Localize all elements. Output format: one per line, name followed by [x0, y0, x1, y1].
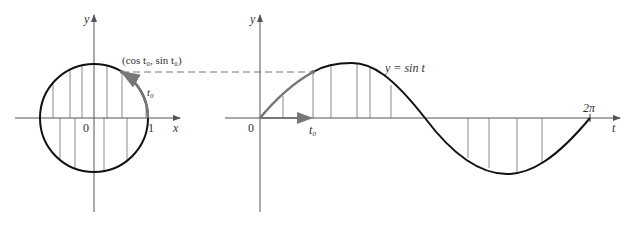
left-panel-unit-circle: y x 0 1 (cos t₀, sin t₀) t₀	[15, 12, 182, 212]
curve-label: y = sin t	[384, 61, 425, 75]
arc-t0	[122, 72, 148, 118]
right-y-axis-label: y	[249, 12, 256, 26]
right-panel-sine-graph: y t 0 t₀ 2π y = sin t	[225, 12, 620, 212]
t0-label: t₀	[309, 123, 317, 137]
left-x-axis-label: x	[172, 121, 179, 135]
t-axis-label: t	[612, 121, 616, 135]
unit-circle-sine-diagram: y x 0 1 (cos t₀, sin t₀) t₀	[0, 0, 631, 228]
point-label: (cos t₀, sin t₀)	[122, 54, 182, 67]
arc-label: t₀	[147, 86, 154, 98]
left-y-axis-label: y	[83, 12, 90, 26]
right-origin-label: 0	[248, 121, 254, 135]
2pi-label: 2π	[583, 101, 596, 115]
left-x-tick-1: 1	[148, 121, 154, 135]
sine-arc-t0	[260, 72, 313, 118]
sine-point-marker	[311, 70, 315, 74]
left-origin-label: 0	[83, 121, 89, 135]
